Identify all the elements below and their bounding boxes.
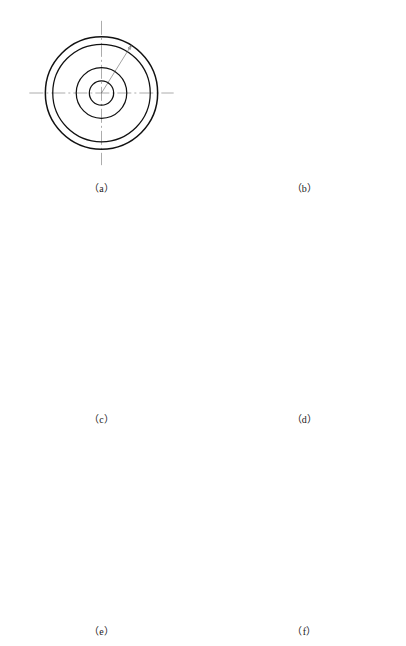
leader-spoke: [102, 45, 132, 93]
panel-caption-b: （b）: [203, 180, 406, 195]
leader-arrowhead: [128, 45, 131, 49]
panel-caption-c: （c）: [0, 411, 203, 426]
drawing-sheet: [0, 0, 406, 646]
panel-caption-d: （d）: [203, 411, 406, 426]
panel-caption-f: （f）: [203, 623, 406, 638]
panel-caption-e: （e）: [0, 623, 203, 638]
panel-a: [29, 21, 173, 165]
panel-caption-a: （a）: [0, 180, 203, 195]
